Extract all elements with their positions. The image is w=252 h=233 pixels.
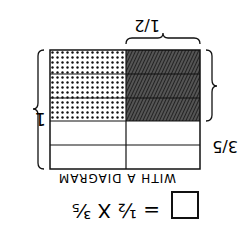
rows-fraction-label: 3/5 <box>212 137 238 156</box>
equation-left: ½ X ³⁄₅ <box>72 199 137 223</box>
equals-sign: = <box>143 199 160 223</box>
answer-box <box>171 191 199 219</box>
cols-fraction-label: 1/2 <box>134 16 160 35</box>
whole-label: 1 <box>35 109 46 130</box>
diagram-stage: 1 3/5 1/2 WITH A DIAGRAM ½ X ³⁄₅ = <box>0 0 252 233</box>
caption: WITH A DIAGRAM <box>42 171 192 185</box>
